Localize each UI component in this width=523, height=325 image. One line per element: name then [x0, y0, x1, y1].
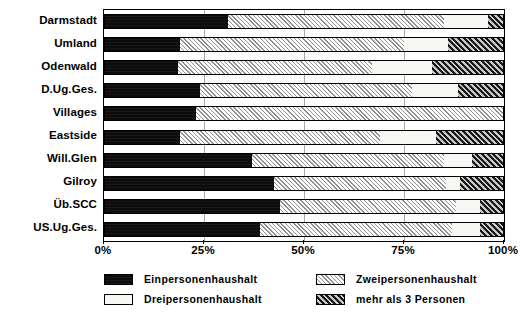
bar-row — [104, 106, 504, 121]
bar-row — [104, 153, 504, 168]
bar-segment — [480, 199, 504, 214]
bar-segment — [480, 222, 504, 237]
bar-segment — [404, 37, 448, 52]
x-tick-mark — [503, 240, 504, 244]
x-tick-label: 100% — [488, 244, 518, 256]
bar-segment — [412, 83, 458, 98]
x-tick-mark — [203, 240, 204, 244]
legend-item: Einpersonenhaushalt — [104, 273, 257, 285]
legend-swatch — [316, 274, 345, 285]
bar-segment — [444, 153, 472, 168]
bar-row — [104, 176, 504, 191]
x-tick-label: 0% — [94, 244, 111, 256]
bar-segment — [460, 176, 504, 191]
household-size-stacked-bar-chart: DarmstadtUmlandOdenwaldD.Ug.Ges.Villages… — [0, 0, 523, 325]
bar-segment — [432, 60, 504, 75]
bar-segment — [488, 14, 504, 29]
bar-row — [104, 14, 504, 29]
bar-segment — [252, 153, 444, 168]
plot-area — [103, 9, 505, 242]
bar-segment — [372, 60, 432, 75]
bar-segment — [104, 153, 252, 168]
bar-segment — [260, 222, 452, 237]
category-label: Villages — [0, 106, 97, 118]
x-tick-mark — [303, 240, 304, 244]
bar-segment — [104, 176, 274, 191]
bar-segment — [200, 83, 412, 98]
bar-segment — [104, 199, 280, 214]
bar-segment — [228, 14, 444, 29]
value-axis-labels: 0%25%50%75%100% — [0, 244, 523, 262]
bar-segment — [180, 37, 404, 52]
category-label: Will.Glen — [0, 152, 97, 164]
chart-legend: EinpersonenhaushaltZweipersonenhaushaltD… — [104, 273, 504, 315]
bar-segment — [104, 37, 180, 52]
legend-label: Zweipersonenhaushalt — [356, 273, 477, 285]
legend-label: Dreipersonenhaushalt — [144, 293, 262, 305]
bar-segment — [104, 60, 178, 75]
category-label: Darmstadt — [0, 14, 97, 26]
category-label: Üb.SCC — [0, 198, 97, 210]
bar-segment — [380, 130, 436, 145]
bar-segment — [446, 176, 460, 191]
bar-segment — [196, 106, 504, 121]
bar-segment — [456, 199, 480, 214]
bar-segment — [104, 222, 260, 237]
bar-segment — [274, 176, 446, 191]
x-tick-mark — [403, 240, 404, 244]
bar-segment — [104, 130, 180, 145]
bar-segment — [448, 37, 504, 52]
category-label: Eastside — [0, 129, 97, 141]
bar-row — [104, 222, 504, 237]
bar-segment — [104, 83, 200, 98]
bar-segment — [180, 130, 380, 145]
x-tick-label: 25% — [191, 244, 215, 256]
legend-item: mehr als 3 Personen — [316, 293, 465, 305]
bar-segment — [280, 199, 456, 214]
category-axis-labels: DarmstadtUmlandOdenwaldD.Ug.Ges.Villages… — [0, 9, 97, 240]
bar-segment — [104, 14, 228, 29]
bar-segment — [444, 14, 488, 29]
bar-row — [104, 199, 504, 214]
bar-row — [104, 37, 504, 52]
x-tick-label: 50% — [291, 244, 315, 256]
bar-row — [104, 130, 504, 145]
bar-segment — [472, 153, 504, 168]
bar-segment — [178, 60, 372, 75]
bar-row — [104, 60, 504, 75]
bar-segment — [458, 83, 504, 98]
legend-label: mehr als 3 Personen — [356, 293, 465, 305]
bar-segment — [452, 222, 480, 237]
x-tick-label: 75% — [391, 244, 415, 256]
legend-label: Einpersonenhaushalt — [144, 273, 257, 285]
category-label: US.Ug.Ges. — [0, 221, 97, 233]
bar-row — [104, 83, 504, 98]
bar-segment — [104, 106, 196, 121]
legend-swatch — [104, 294, 133, 305]
category-label: D.Ug.Ges. — [0, 83, 97, 95]
legend-swatch — [316, 294, 345, 305]
bar-segment — [436, 130, 504, 145]
legend-swatch — [104, 274, 133, 285]
x-tick-mark — [103, 240, 104, 244]
legend-item: Dreipersonenhaushalt — [104, 293, 262, 305]
category-label: Odenwald — [0, 60, 97, 72]
category-label: Umland — [0, 37, 97, 49]
legend-item: Zweipersonenhaushalt — [316, 273, 477, 285]
category-label: Gilroy — [0, 175, 97, 187]
